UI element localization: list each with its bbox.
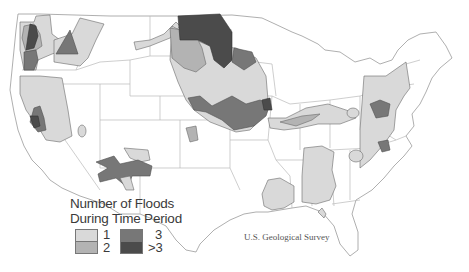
legend-title-line2: During Time Period — [70, 211, 200, 226]
zone-mo-gt3 — [262, 98, 272, 110]
zone-al-1 — [302, 146, 336, 204]
zone-nv-1 — [78, 125, 86, 137]
zone-ky-oval-1 — [347, 108, 359, 118]
legend-swatches: 1 2 3 >3 — [70, 229, 200, 257]
source-credit: U.S. Geological Survey — [244, 232, 330, 242]
legend-label-2: 2 — [103, 242, 110, 254]
legend-label-gt3: >3 — [148, 242, 163, 254]
legend-swatch-2 — [75, 241, 98, 254]
zone-tn-oval-1 — [349, 150, 363, 162]
legend-swatch-gt3 — [120, 241, 143, 254]
legend: Number of Floods During Time Period 1 2 … — [70, 196, 200, 257]
legend-title-line1: Number of Floods — [70, 196, 200, 211]
